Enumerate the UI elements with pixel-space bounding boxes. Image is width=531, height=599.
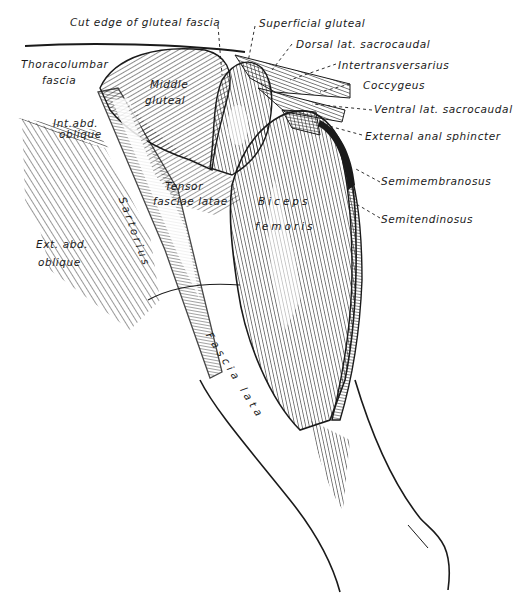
label-middle-gluteal-2: gluteal [145, 94, 185, 106]
muscle-illustration [0, 0, 531, 599]
label-thoracolumbar-fascia-1: Thoracolumbar [21, 58, 108, 70]
label-dorsal-lat-sacrocaudal: Dorsal lat. sacrocaudal [296, 38, 430, 50]
label-semitendinosus: Semitendinosus [381, 213, 473, 225]
label-intertransversarius: Intertransversarius [338, 59, 449, 71]
label-middle-gluteal-1: Middle [150, 78, 188, 90]
label-superficial-gluteal: Superficial gluteal [259, 17, 365, 29]
label-ventral-lat-sacrocaudal: Ventral lat. sacrocaudal [374, 103, 513, 115]
label-external-anal-sphincter: External anal sphincter [365, 130, 501, 142]
label-tensor-fasciae-latae-2: fasciae latae [153, 195, 228, 207]
dorsal-outline [25, 44, 245, 52]
label-biceps-femoris-1: Biceps [258, 195, 311, 207]
label-int-abd-oblique-2: oblique [59, 128, 102, 140]
label-cut-edge-gluteal-fascia: Cut edge of gluteal fascia [70, 16, 220, 28]
label-coccygeus: Coccygeus [363, 79, 425, 91]
label-tensor-fasciae-latae-1: Tensor [165, 180, 203, 192]
label-ext-abd-oblique-1: Ext. abd. [36, 238, 88, 250]
thigh-outline-caudal [355, 380, 449, 590]
label-biceps-femoris-2: femoris [255, 220, 316, 232]
label-semimembranosus: Semimembranosus [381, 175, 491, 187]
label-thoracolumbar-fascia-2: fascia [42, 74, 76, 86]
label-ext-abd-oblique-2: oblique [38, 256, 81, 268]
